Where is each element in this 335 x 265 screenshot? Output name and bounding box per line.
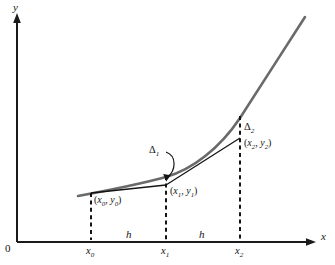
y-axis-label: y <box>13 2 18 13</box>
point-1-close: ) <box>194 185 197 196</box>
point-label-x2-y2: (x2, y2) <box>244 138 271 148</box>
point-2-y-main: y <box>260 137 264 148</box>
x-tick-x1-sub: 1 <box>166 251 170 259</box>
point-1-x-sub: 1 <box>178 191 181 198</box>
delta-1-sub: 1 <box>156 150 160 158</box>
delta-1-glyph: Δ <box>149 144 156 155</box>
euler-chord-segment-2 <box>166 138 240 185</box>
delta-1-label: Δ1 <box>149 145 159 156</box>
x-tick-x0-sub: 0 <box>91 251 95 259</box>
point-2-x-sub: 2 <box>252 143 255 150</box>
point-0-y-sub: 0 <box>115 200 118 207</box>
point-0-close: ) <box>118 194 121 205</box>
x-tick-x2-main: x <box>235 245 240 256</box>
point-1-y-sub: 1 <box>191 191 194 198</box>
x-tick-x2-sub: 2 <box>240 251 244 259</box>
point-label-x1-y1: (x1, y1) <box>170 186 197 196</box>
x-axis-label: x <box>321 231 326 242</box>
point-0-y-main: y <box>110 194 114 205</box>
x-tick-x0-main: x <box>86 245 91 256</box>
delta-2-sub: 2 <box>251 127 255 135</box>
point-2-close: ) <box>268 137 271 148</box>
x-tick-x1-main: x <box>161 245 166 256</box>
x-axis-arrowhead <box>306 238 316 246</box>
euler-method-figure: y x 0 x0 x1 x2 h h (x0, y0) (x1, y1) (x2… <box>0 0 335 265</box>
delta-2-label: Δ2 <box>244 122 254 133</box>
point-2-y-sub: 2 <box>265 143 268 150</box>
step-size-label-second: h <box>199 229 205 240</box>
point-1-y-main: y <box>186 185 190 196</box>
origin-label: 0 <box>5 243 11 254</box>
point-label-x0-y0: (x0, y0) <box>94 195 121 205</box>
x-tick-label-x2: x2 <box>235 246 243 257</box>
y-axis-arrowhead <box>13 13 21 23</box>
step-size-label-first: h <box>126 229 132 240</box>
x-tick-label-x1: x1 <box>161 246 169 257</box>
point-0-x-sub: 0 <box>102 200 105 207</box>
figure-canvas <box>0 0 335 265</box>
x-tick-label-x0: x0 <box>86 246 94 257</box>
delta-2-glyph: Δ <box>244 121 251 132</box>
